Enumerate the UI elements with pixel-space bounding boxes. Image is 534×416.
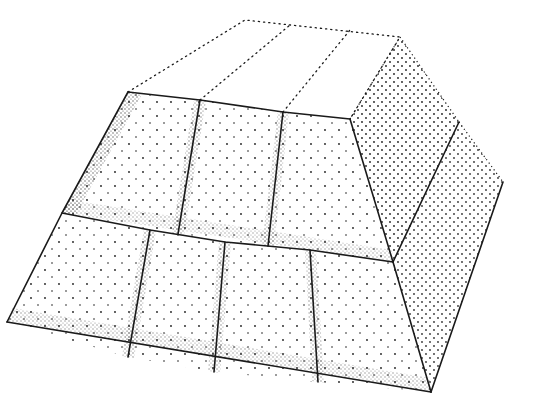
pyramid-illustration: Stippled drawing of a stepped truncated … [0, 0, 534, 416]
